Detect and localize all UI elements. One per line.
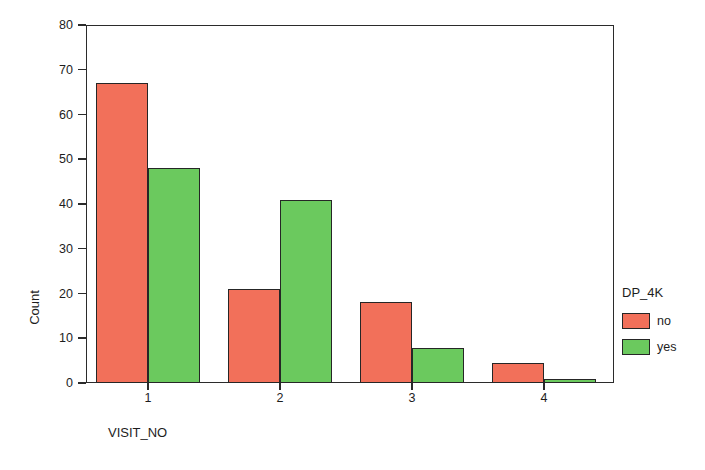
y-axis-tick-mark <box>78 158 86 160</box>
y-axis-tick-label: 10 <box>59 331 73 345</box>
y-axis-tick-mark <box>78 203 86 205</box>
legend-item: yes <box>622 339 705 355</box>
y-axis-tick-label: 20 <box>59 287 73 301</box>
bar <box>280 200 332 383</box>
y-axis-tick-label: 70 <box>59 63 73 77</box>
y-axis-tick-label: 60 <box>59 108 73 122</box>
y-axis-tick: 30 <box>0 242 86 256</box>
y-axis-tick: 40 <box>0 197 86 211</box>
y-axis-tick-mark <box>78 248 86 250</box>
bar <box>360 302 412 383</box>
legend-item: no <box>622 313 705 329</box>
y-axis-tick-mark <box>78 24 86 26</box>
y-axis-tick: 60 <box>0 108 86 122</box>
legend-swatch <box>622 339 650 355</box>
y-axis-tick: 80 <box>0 18 86 32</box>
y-axis-title: Count <box>27 268 42 348</box>
legend: DP_4K noyes <box>622 285 705 365</box>
y-axis-tick-mark <box>78 337 86 339</box>
bar <box>96 83 148 383</box>
bar <box>492 363 544 383</box>
bar <box>148 168 200 383</box>
bars-layer <box>86 25 614 383</box>
y-axis-tick-label: 40 <box>59 197 73 211</box>
legend-title: DP_4K <box>622 285 705 300</box>
y-axis-tick-mark <box>78 293 86 295</box>
y-axis-tick-mark <box>78 69 86 71</box>
x-axis-tick-mark <box>147 383 149 390</box>
x-axis-tick-label: 4 <box>524 391 564 405</box>
y-axis-tick-mark <box>78 114 86 116</box>
x-axis-tick-label: 3 <box>392 391 432 405</box>
x-axis-tick-mark <box>543 383 545 390</box>
x-axis-tick-label: 2 <box>260 391 300 405</box>
x-axis-tick-mark <box>279 383 281 390</box>
x-axis-tick-label: 1 <box>128 391 168 405</box>
legend-entries: noyes <box>622 313 705 355</box>
legend-item-label: no <box>657 314 671 328</box>
x-axis-title: VISIT_NO <box>108 425 167 440</box>
y-axis-tick-label: 80 <box>59 18 73 32</box>
bar-chart: 01020304050607080 Count 1234 VISIT_NO DP… <box>0 0 705 470</box>
x-axis-tick-mark <box>411 383 413 390</box>
bar <box>228 289 280 383</box>
legend-item-label: yes <box>657 340 676 354</box>
y-axis-tick-label: 50 <box>59 152 73 166</box>
x-axis: 1234 <box>0 383 705 423</box>
y-axis-tick: 50 <box>0 152 86 166</box>
legend-swatch <box>622 313 650 329</box>
y-axis-tick: 10 <box>0 331 86 345</box>
y-axis-tick-label: 30 <box>59 242 73 256</box>
y-axis-tick: 20 <box>0 287 86 301</box>
bar <box>412 348 464 383</box>
y-axis-tick: 70 <box>0 63 86 77</box>
